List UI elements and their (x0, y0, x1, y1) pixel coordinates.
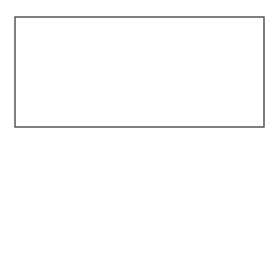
panel-frame (15, 17, 125, 127)
panel-border (15, 17, 264, 127)
border-rect (15, 18, 125, 128)
figure-box (15, 17, 264, 127)
visible-border (15, 17, 125, 127)
frame-main (15, 17, 125, 127)
outer-border (15, 17, 125, 127)
diagram-canvas (0, 0, 280, 277)
frame (15, 17, 125, 127)
frame-border (15, 17, 125, 127)
main-border (15, 17, 125, 127)
the-border (15, 17, 264, 127)
outer-frame (15, 17, 125, 127)
box (15, 17, 125, 127)
border (15, 17, 125, 127)
figure-border (15, 17, 264, 127)
figure-frame (15, 17, 264, 127)
border-outline (15, 17, 125, 127)
figure-outline (15, 17, 125, 127)
square-frame (15, 17, 125, 127)
